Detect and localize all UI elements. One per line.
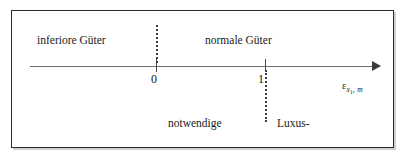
figure-root: inferiore Güter normale Güter 0 1 notwen… (0, 0, 408, 160)
label-notwendige-gueter-line1: notwendige (168, 116, 222, 131)
axis-subscript-tail: , m (353, 85, 363, 94)
label-luxusgueter: Luxus- güter (277, 86, 310, 160)
label-normale-gueter: normale Güter (205, 33, 272, 48)
tick-label-one: 1 (258, 72, 264, 86)
dotted-divider-one (265, 70, 267, 122)
tick-label-zero: 0 (151, 72, 157, 86)
axis-variable-label: εx1, m (342, 80, 363, 98)
number-line-axis (30, 66, 380, 67)
dotted-divider-zero (156, 25, 158, 63)
label-notwendige-gueter: notwendige Güter (168, 86, 222, 160)
axis-arrowhead-icon (372, 61, 381, 71)
label-luxusgueter-line1: Luxus- (277, 116, 310, 131)
label-inferiore-gueter: inferiore Güter (37, 33, 106, 48)
